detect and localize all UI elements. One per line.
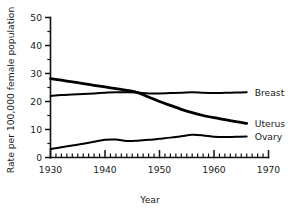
x-axis-title: Year (139, 194, 160, 205)
y-tick-label: 30 (30, 68, 42, 79)
series-label-breast: Breast (255, 87, 285, 98)
series-label-uterus: Uterus (255, 118, 286, 129)
data-series (51, 79, 247, 150)
series-line-ovary (51, 135, 247, 149)
x-tick-label: 1930 (39, 164, 63, 175)
x-tick-label: 1950 (148, 164, 172, 175)
y-axis-title: Rate per 100,000 female population (5, 7, 16, 174)
y-tick-label: 40 (30, 40, 42, 51)
chart-figure: 0102030405019301940195019601970 BreastUt… (0, 0, 291, 209)
y-tick-label: 20 (30, 96, 42, 107)
x-tick-label: 1970 (257, 164, 281, 175)
line-chart: 0102030405019301940195019601970 BreastUt… (0, 0, 291, 209)
x-tick-label: 1960 (202, 164, 226, 175)
series-label-ovary: Ovary (255, 131, 283, 142)
y-tick-label: 10 (30, 124, 42, 135)
series-labels: BreastUterusOvary (255, 87, 286, 142)
series-line-breast (51, 92, 247, 96)
y-tick-label: 0 (36, 152, 42, 163)
x-tick-label: 1940 (93, 164, 117, 175)
series-line-uterus (51, 79, 247, 124)
y-tick-label: 50 (30, 12, 42, 23)
